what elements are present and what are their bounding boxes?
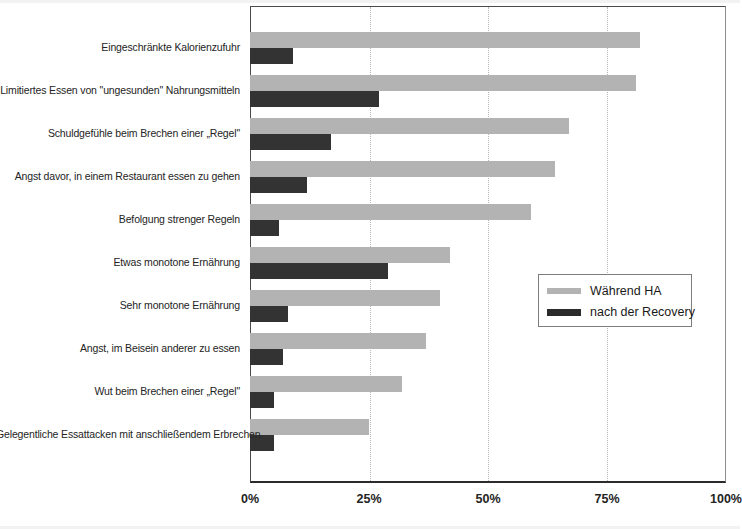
bar-row xyxy=(250,419,726,462)
bar-row xyxy=(250,161,726,204)
category-axis: Eingeschränkte KalorienzufuhrLimitiertes… xyxy=(0,6,246,483)
category-label: Schuldgefühle beim Brechen einer „Regel" xyxy=(0,127,240,139)
bar-wahrend-ha xyxy=(250,333,426,349)
bar-wahrend-ha xyxy=(250,419,369,435)
category-label: Eingeschränkte Kalorienzufuhr xyxy=(0,41,240,53)
category-label: Sehr monotone Ernährung xyxy=(0,299,240,311)
x-tick-label: 50% xyxy=(475,492,500,506)
bar-wahrend-ha xyxy=(250,247,450,263)
bar-rows xyxy=(250,6,726,483)
category-label: Etwas monotone Ernährung xyxy=(0,256,240,268)
legend-swatch-dark xyxy=(547,309,581,316)
bar-nach-der-recovery xyxy=(250,263,388,279)
bar-wahrend-ha xyxy=(250,118,569,134)
legend-item-nach-der-recovery: nach der Recovery xyxy=(547,302,683,322)
bar-row xyxy=(250,75,726,118)
bar-row xyxy=(250,376,726,419)
category-label: Wut beim Brechen einer „Regel" xyxy=(0,385,240,397)
bar-nach-der-recovery xyxy=(250,392,274,408)
bar-row xyxy=(250,333,726,376)
legend-label-wahrend-ha: Während HA xyxy=(590,284,662,298)
bar-row xyxy=(250,204,726,247)
bar-wahrend-ha xyxy=(250,376,402,392)
legend-swatch-light xyxy=(547,288,581,294)
legend-label-nach-der-recovery: nach der Recovery xyxy=(590,305,695,319)
legend: Während HA nach der Recovery xyxy=(538,274,692,327)
bar-nach-der-recovery xyxy=(250,306,288,322)
bar-nach-der-recovery xyxy=(250,349,283,365)
x-axis-labels: 0%25%50%75%100% xyxy=(0,492,740,512)
bar-wahrend-ha xyxy=(250,290,440,306)
bar-row xyxy=(250,118,726,161)
bar-nach-der-recovery xyxy=(250,134,331,150)
bar-nach-der-recovery xyxy=(250,91,379,107)
bar-row xyxy=(250,32,726,75)
category-label: Angst davor, in einem Restaurant essen z… xyxy=(0,170,240,182)
category-label: Angst, im Beisein anderer zu essen xyxy=(0,342,240,354)
bar-nach-der-recovery xyxy=(250,220,279,236)
bar-nach-der-recovery xyxy=(250,48,293,64)
category-label: Gelegentliche Essattacken mit anschließe… xyxy=(0,428,240,440)
category-label: Limitiertes Essen von "ungesunden" Nahru… xyxy=(0,84,240,96)
x-tick-label: 100% xyxy=(710,492,742,506)
category-label: Befolgung strenger Regeln xyxy=(0,213,240,225)
legend-item-wahrend-ha: Während HA xyxy=(547,281,683,301)
x-tick-label: 25% xyxy=(356,492,381,506)
bar-wahrend-ha xyxy=(250,75,636,91)
bar-wahrend-ha xyxy=(250,204,531,220)
scan-edge-top xyxy=(0,0,740,3)
bar-nach-der-recovery xyxy=(250,177,307,193)
bar-wahrend-ha xyxy=(250,161,555,177)
x-tick-label: 0% xyxy=(241,492,259,506)
x-tick-label: 75% xyxy=(594,492,619,506)
bar-wahrend-ha xyxy=(250,32,640,48)
